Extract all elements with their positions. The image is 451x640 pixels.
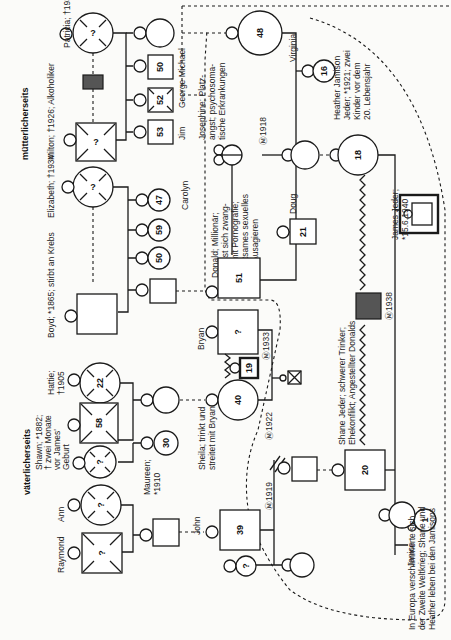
svg-text:In Europa verschlimmerte sich: In Europa verschlimmerte sich — [407, 515, 417, 630]
person-donald[interactable]: 51 — [218, 258, 260, 298]
person-shawn-wife[interactable]: ? — [84, 446, 116, 478]
person-maureen[interactable]: 30 — [154, 431, 178, 455]
svg-text:?: ? — [90, 182, 96, 192]
person-shawn[interactable]: 58 — [80, 403, 118, 443]
person-patricia-age: ? — [90, 28, 96, 38]
jim-label: Jim — [177, 127, 187, 140]
person-josephine[interactable]: 48 — [238, 11, 282, 55]
svg-text:21: 21 — [298, 227, 308, 237]
milton-label: Milton; †1926; Alkoholiker — [46, 63, 56, 160]
svg-text:Geburt: Geburt — [61, 443, 71, 470]
svg-text:47: 47 — [154, 195, 164, 205]
svg-text:Hattie;: Hattie; — [46, 370, 56, 395]
svg-text:52: 52 — [155, 95, 165, 105]
person-boyd[interactable] — [77, 294, 117, 334]
svg-text:?: ? — [241, 563, 251, 569]
svg-text:der Zweite Weltkrieg; Shane un: der Zweite Weltkrieg; Shane und — [417, 507, 427, 630]
svg-text:†1905: †1905 — [56, 371, 66, 395]
svg-text:48: 48 — [255, 28, 265, 38]
svg-text:?: ? — [233, 329, 243, 335]
person-son[interactable] — [150, 279, 176, 303]
person-unknown-girl[interactable]: ? — [236, 556, 256, 576]
svg-text:James Jeder;: James Jeder; — [390, 189, 400, 240]
svg-text:50: 50 — [155, 62, 165, 72]
person-sheila[interactable]: 40 — [218, 380, 258, 420]
svg-text:40: 40 — [233, 395, 243, 405]
person-hattie[interactable]: 22 — [80, 363, 120, 403]
svg-text:Ehekonflikt; Angestellter Dona: Ehekonflikt; Angestellter Donalds — [347, 321, 357, 445]
svg-text:*1910: *1910 — [152, 473, 162, 495]
svg-text:30: 30 — [161, 438, 171, 448]
person-john[interactable] — [153, 519, 179, 546]
virginia-label: Virginia — [288, 34, 298, 62]
carolyn-label: Carolyn — [180, 180, 190, 210]
person-jim[interactable]: 53 — [148, 120, 173, 144]
svg-text:50: 50 — [154, 253, 164, 263]
miscarriage-box — [83, 75, 103, 89]
person-george-michael[interactable]: 50 — [148, 55, 173, 79]
maternal-header: mütterlicherseits — [20, 87, 30, 160]
person-carolyn[interactable]: 47 — [148, 189, 170, 211]
person-deceased-infant[interactable] — [288, 371, 301, 384]
svg-text:Heather leben bei den Jamisons: Heather leben bei den Jamisons — [427, 508, 437, 630]
svg-text:58: 58 — [94, 418, 104, 428]
person-bryan[interactable]: ? — [218, 310, 258, 354]
svg-text:19: 19 — [244, 363, 254, 373]
person-child-19[interactable]: 19 — [240, 358, 258, 378]
marriage-1919: Ⓜ1919 — [264, 482, 274, 510]
person-39[interactable]: 39 — [220, 510, 260, 550]
svg-text:Sheila; trinkt und: Sheila; trinkt und — [197, 406, 207, 470]
svg-text:Heather Jamison: Heather Jamison — [332, 55, 342, 120]
person-sheila-ex[interactable] — [292, 457, 317, 481]
svg-text:22: 22 — [95, 378, 105, 388]
marriage-1938: Ⓜ1938 — [384, 292, 394, 320]
svg-text:Shane Jeder; schwerer Trinker;: Shane Jeder; schwerer Trinker; — [337, 327, 347, 445]
svg-text:59: 59 — [154, 225, 164, 235]
svg-text:Kinder vor dem: Kinder vor dem — [352, 62, 362, 120]
boyd-label: Boyd; *1865; stirbt an Krebs — [46, 232, 56, 338]
genogram-canvas: ? Patricia; †1930 ? Milton; †1926; Alkoh… — [0, 0, 451, 640]
patricia-label: Patricia; †1930 — [62, 0, 72, 48]
svg-text:16: 16 — [319, 66, 329, 76]
svg-text:?: ? — [96, 502, 106, 508]
person-heather[interactable]: 18 — [338, 135, 378, 175]
person-patricia[interactable]: ? — [73, 13, 113, 53]
svg-text:Maureen;: Maureen; — [142, 459, 152, 495]
svg-text:?: ? — [95, 459, 105, 465]
josephine-label-1: Josephine; Platz- — [197, 75, 207, 140]
person-milton[interactable]: ? — [76, 123, 116, 161]
svg-text:53: 53 — [155, 127, 165, 137]
person-sister-50[interactable]: 50 — [148, 247, 170, 269]
svg-text:20: 20 — [360, 465, 370, 475]
bryan-label: Bryan — [196, 328, 206, 350]
svg-text:Jeder; *1921; zwei: Jeder; *1921; zwei — [342, 50, 352, 120]
ann-label: Ann — [56, 507, 66, 522]
svg-text:39: 39 — [235, 525, 245, 535]
person-sibling-52[interactable]: 52 — [148, 88, 173, 112]
genogram: ? Patricia; †1930 ? Milton; †1926; Alkoh… — [0, 0, 451, 640]
paternal-header: väterlicherseits — [22, 429, 32, 495]
miscarriage-box-1938 — [356, 293, 381, 319]
elizabeth-label: Elizabeth; †1934 — [46, 154, 56, 218]
marriage-1918: Ⓜ1918 — [258, 117, 268, 145]
person-sister-59[interactable]: 59 — [148, 219, 170, 241]
marriage-1933: Ⓜ1933 — [261, 332, 271, 360]
svg-text:?: ? — [97, 550, 107, 556]
marriage-1922: Ⓜ1922 — [264, 412, 274, 440]
svg-text:51: 51 — [234, 273, 244, 283]
person-elizabeth[interactable]: ? — [73, 167, 113, 207]
person-ann[interactable]: ? — [81, 485, 121, 525]
svg-text:angst; psychosoma-: angst; psychosoma- — [207, 64, 217, 140]
svg-text:?: ? — [93, 137, 99, 147]
svg-text:Ausagieren: Ausagieren — [250, 219, 260, 262]
svg-text:20. Lebensjahr: 20. Lebensjahr — [362, 64, 372, 120]
svg-text:*15.6.1940: *15.6.1940 — [400, 199, 410, 240]
person-doug[interactable]: 21 — [290, 219, 316, 244]
svg-text:tische Erkrankungen: tische Erkrankungen — [217, 62, 227, 140]
person-raymond[interactable]: ? — [82, 533, 122, 573]
svg-text:18: 18 — [353, 150, 363, 160]
person-shane[interactable]: 20 — [345, 450, 385, 490]
svg-text:streitet mit Bryan: streitet mit Bryan — [207, 406, 217, 470]
doug-label: Doug — [288, 193, 298, 214]
george-michael-label: George Michael — [177, 48, 187, 108]
